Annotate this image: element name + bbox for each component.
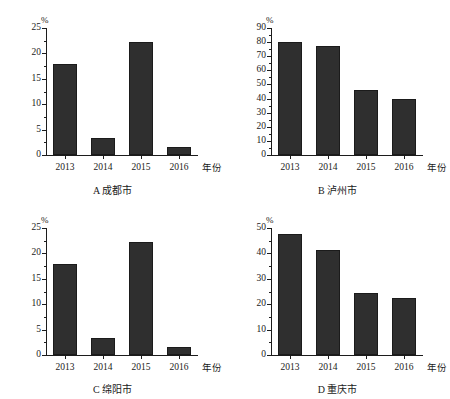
y-tick-label-a-0: 0 <box>36 150 41 160</box>
x-tick-a-2013 <box>65 156 66 159</box>
x-axis-label-c-2014: 2014 <box>94 363 113 373</box>
y-tick-label-b-70: 70 <box>257 51 267 61</box>
y-minor-tick-b <box>269 77 271 78</box>
y-tick-b-90 <box>267 28 271 29</box>
y-axis-c <box>46 228 47 356</box>
bar-a-2014 <box>91 138 115 155</box>
y-tick-b-70 <box>267 56 271 57</box>
x-tick-d-2013 <box>290 356 291 359</box>
y-minor-tick-c <box>44 342 46 343</box>
y-tick-c-0 <box>42 355 46 356</box>
bar-a-2013 <box>53 64 77 155</box>
y-tick-a-10 <box>42 104 46 105</box>
y-tick-label-d-0: 0 <box>261 350 266 360</box>
y-tick-b-30 <box>267 113 271 114</box>
y-minor-tick-a <box>44 66 46 67</box>
y-tick-b-60 <box>267 70 271 71</box>
plot-area-d: 01020304050 <box>271 228 423 356</box>
y-tick-label-b-80: 80 <box>257 37 267 47</box>
bar-d-2016 <box>392 298 416 355</box>
x-tick-a-2016 <box>179 156 180 159</box>
y-tick-label-d-30: 30 <box>257 274 267 284</box>
bar-b-2013 <box>278 42 302 155</box>
y-minor-tick-b <box>269 106 271 107</box>
x-axis-label-a-2014: 2014 <box>94 163 113 173</box>
y-unit-label-d: % <box>266 216 274 225</box>
panel-caption-d: D 重庆市 <box>225 385 450 395</box>
x-axis-label-b-2015: 2015 <box>357 163 376 173</box>
x-axis-label-a-2016: 2016 <box>170 163 189 173</box>
x-axis-label-c-2016: 2016 <box>170 363 189 373</box>
x-tick-c-2016 <box>179 356 180 359</box>
x-axis-label-a-2015: 2015 <box>132 163 151 173</box>
y-tick-label-b-30: 30 <box>257 108 267 118</box>
x-axis-label-d-2016: 2016 <box>395 363 414 373</box>
panel-caption-b: B 泸州市 <box>225 186 450 196</box>
y-tick-label-c-5: 5 <box>36 325 41 335</box>
bar-chart-figure: % 0510152025 A 成都市 2013201420152016年份 % … <box>0 0 450 399</box>
plot-area-a: 0510152025 <box>46 28 198 156</box>
x-axis-title-a: 年份 <box>202 164 222 174</box>
y-tick-d-20 <box>267 304 271 305</box>
x-axis-label-c-2015: 2015 <box>132 363 151 373</box>
y-tick-c-10 <box>42 304 46 305</box>
y-tick-label-b-90: 90 <box>257 23 267 33</box>
x-axis-label-d-2015: 2015 <box>357 363 376 373</box>
y-tick-a-0 <box>42 155 46 156</box>
y-minor-tick-b <box>269 49 271 50</box>
y-tick-c-25 <box>42 228 46 229</box>
y-tick-label-b-50: 50 <box>257 80 267 90</box>
y-tick-a-15 <box>42 79 46 80</box>
y-axis-d <box>271 228 272 356</box>
y-minor-tick-b <box>269 35 271 36</box>
y-tick-label-d-20: 20 <box>257 299 267 309</box>
y-tick-c-15 <box>42 279 46 280</box>
y-tick-b-10 <box>267 141 271 142</box>
y-tick-c-20 <box>42 253 46 254</box>
y-tick-label-b-60: 60 <box>257 66 267 76</box>
bar-c-2015 <box>129 242 153 355</box>
y-tick-label-d-40: 40 <box>257 249 267 259</box>
y-tick-b-0 <box>267 155 271 156</box>
chart-panel-c: % 0510152025 C 绵阳市 2013201420152016年份 <box>0 199 225 399</box>
x-axis-label-b-2013: 2013 <box>281 163 300 173</box>
x-axis-label-d-2014: 2014 <box>319 363 338 373</box>
x-tick-b-2016 <box>404 156 405 159</box>
bar-b-2015 <box>354 90 378 155</box>
bar-d-2013 <box>278 234 302 355</box>
y-tick-d-30 <box>267 279 271 280</box>
bar-a-2015 <box>129 42 153 155</box>
y-tick-b-20 <box>267 127 271 128</box>
y-tick-d-0 <box>267 355 271 356</box>
x-tick-a-2015 <box>141 156 142 159</box>
y-minor-tick-b <box>269 120 271 121</box>
y-tick-label-a-5: 5 <box>36 125 41 135</box>
plot-area-b: 0102030405060708090 <box>271 28 423 156</box>
y-minor-tick-c <box>44 266 46 267</box>
y-minor-tick-b <box>269 148 271 149</box>
y-unit-label-a: % <box>41 16 49 25</box>
bar-b-2014 <box>316 46 340 155</box>
y-minor-tick-b <box>269 92 271 93</box>
y-minor-tick-c <box>44 317 46 318</box>
y-tick-label-b-0: 0 <box>261 150 266 160</box>
x-tick-b-2013 <box>290 156 291 159</box>
y-unit-label-c: % <box>41 216 49 225</box>
y-tick-label-c-0: 0 <box>36 350 41 360</box>
y-minor-tick-d <box>269 266 271 267</box>
y-tick-label-a-20: 20 <box>32 49 42 59</box>
bar-c-2014 <box>91 338 115 355</box>
y-tick-label-c-10: 10 <box>32 299 42 309</box>
chart-panel-b: % 0102030405060708090 B 泸州市 201320142015… <box>225 0 450 199</box>
y-tick-label-b-40: 40 <box>257 94 267 104</box>
y-tick-label-a-15: 15 <box>32 74 42 84</box>
y-minor-tick-a <box>44 142 46 143</box>
y-tick-d-10 <box>267 330 271 331</box>
x-tick-b-2014 <box>328 156 329 159</box>
x-tick-c-2015 <box>141 356 142 359</box>
y-tick-d-40 <box>267 253 271 254</box>
y-minor-tick-c <box>44 292 46 293</box>
chart-panel-d: % 01020304050 D 重庆市 2013201420152016年份 <box>225 199 450 399</box>
y-minor-tick-d <box>269 241 271 242</box>
y-minor-tick-d <box>269 292 271 293</box>
